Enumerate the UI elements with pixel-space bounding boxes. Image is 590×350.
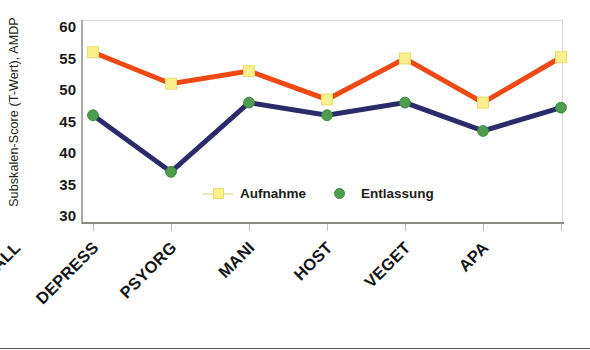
data-point-circle bbox=[322, 110, 333, 121]
data-point-circle bbox=[88, 110, 99, 121]
data-point-circle bbox=[556, 102, 567, 113]
data-point-square bbox=[322, 94, 333, 105]
data-point-square bbox=[244, 66, 255, 77]
data-point-circle bbox=[166, 167, 177, 178]
data-point-square bbox=[88, 47, 99, 58]
data-point-square bbox=[478, 97, 489, 108]
data-point-circle bbox=[244, 97, 255, 108]
series-layer bbox=[0, 0, 590, 350]
legend-square-glyph bbox=[213, 188, 224, 199]
data-point-square bbox=[166, 78, 177, 89]
legend-item-aufnahme: Aufnahme bbox=[203, 186, 306, 201]
legend-label-entlassung: Entlassung bbox=[361, 186, 434, 201]
data-point-square bbox=[400, 53, 411, 64]
yellow-square-marker bbox=[203, 188, 233, 200]
figure-bottom-rule bbox=[0, 348, 590, 349]
data-point-square bbox=[556, 52, 567, 63]
chart-legend: Aufnahme Entlassung bbox=[203, 186, 434, 201]
chart-figure: Subskalen-Score (T-Wert), AMDP 605550454… bbox=[0, 0, 590, 350]
legend-label-aufnahme: Aufnahme bbox=[240, 186, 306, 201]
green-circle-marker bbox=[324, 188, 354, 200]
data-point-circle bbox=[478, 126, 489, 137]
data-point-circle bbox=[400, 97, 411, 108]
legend-circle-glyph bbox=[334, 188, 345, 199]
legend-item-entlassung: Entlassung bbox=[324, 186, 434, 201]
